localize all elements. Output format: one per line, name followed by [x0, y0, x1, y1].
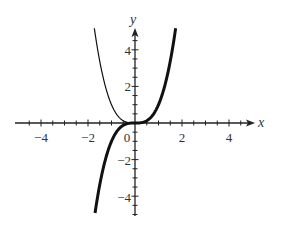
x-tick-label: −4	[34, 130, 48, 145]
y-tick-label: 2	[125, 79, 132, 94]
y-tick-label: 4	[125, 43, 132, 58]
x-axis-label: x	[257, 115, 265, 130]
x-tick-label: 0	[124, 130, 131, 145]
y-axis-label: y	[128, 12, 137, 27]
x-tick-label: 2	[179, 130, 186, 145]
chart: x y −4 −2 0 2 4 4 2 −2 −4	[0, 0, 281, 227]
y-tick-label: −2	[117, 153, 131, 168]
x-tick-label: 4	[226, 130, 233, 145]
x-tick-label: −2	[81, 130, 95, 145]
y-tick-label: −4	[117, 190, 131, 205]
